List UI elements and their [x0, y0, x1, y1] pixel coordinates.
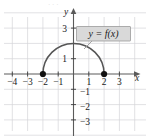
x-tick-label: −2	[38, 77, 48, 87]
endpoint-dot-right	[101, 71, 107, 77]
endpoint-dot-left	[40, 71, 46, 77]
y-tick-label: 3	[62, 24, 67, 34]
graph-figure: · · ·	[0, 0, 148, 138]
y-axis-label: y	[63, 7, 69, 17]
y-tick-label: −3	[80, 117, 90, 127]
x-tick-labels: −4 −3 −2 −1 1 2 3	[7, 77, 122, 87]
y-axis-arrow-icon	[71, 8, 77, 14]
x-tick-label: −1	[53, 77, 63, 87]
y-tick-label: −2	[80, 102, 90, 112]
x-tick-label: −4	[7, 77, 17, 87]
y-tick-label: 1	[62, 54, 67, 64]
x-axis-label: x	[134, 73, 140, 83]
x-tick-label: 1	[86, 77, 91, 87]
x-tick-label: 3	[117, 77, 122, 87]
x-tick-label: −3	[23, 77, 33, 87]
top-artifact-text: · · ·	[48, 1, 59, 9]
y-tick-label: −1	[80, 87, 90, 97]
curve-label-text: y = f(x)	[87, 28, 119, 40]
x-tick-label: 2	[102, 77, 107, 87]
graph-canvas: · · ·	[0, 0, 148, 138]
